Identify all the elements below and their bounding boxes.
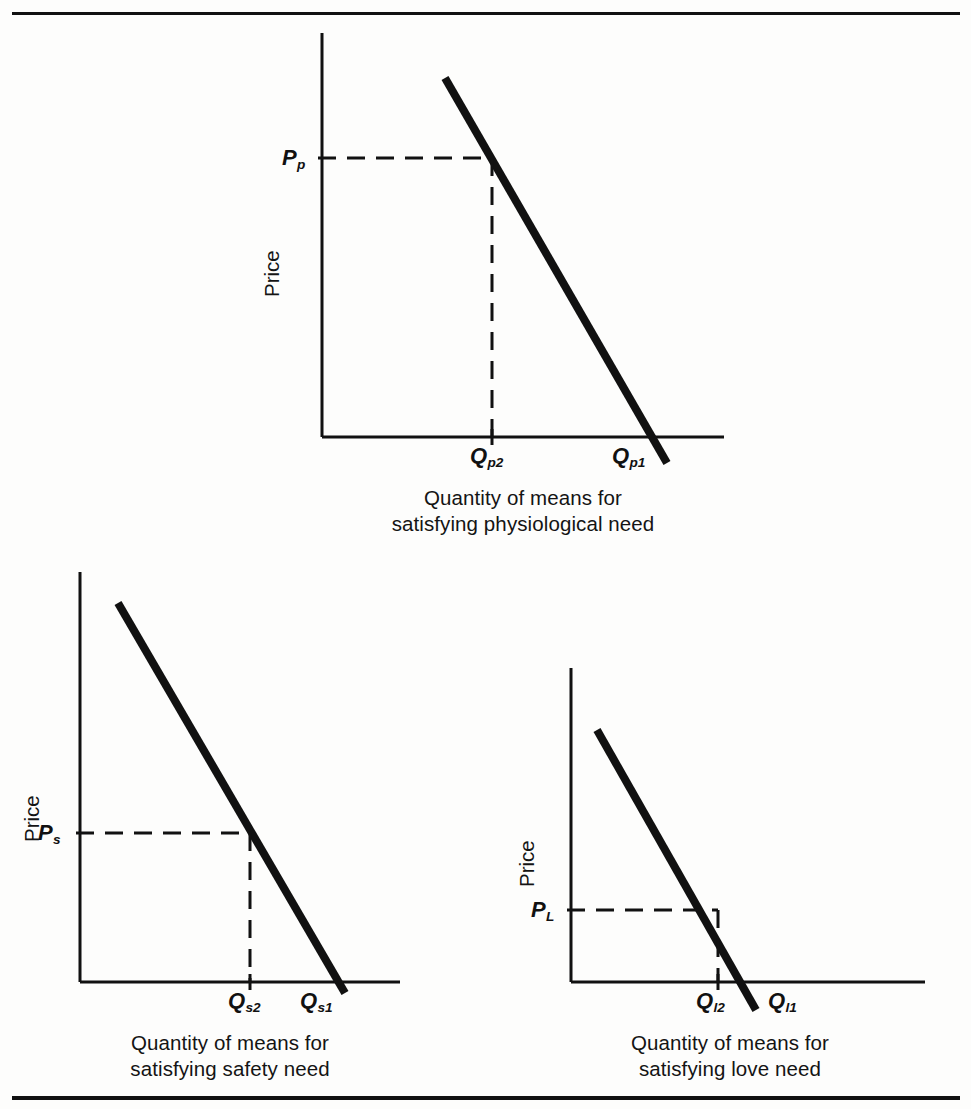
caption-physiological-line2: satisfying physiological need bbox=[322, 511, 724, 537]
figure-container: Price Pp Qp2 Qp1 Quantity of means for s… bbox=[0, 0, 971, 1109]
tick-label-q-p2-base: Q bbox=[470, 443, 487, 468]
caption-safety-line1: Quantity of means for bbox=[60, 1030, 400, 1056]
caption-safety: Quantity of means for satisfying safety … bbox=[60, 1030, 400, 1082]
tick-label-q-p1-sub: p1 bbox=[629, 455, 645, 470]
tick-label-q-l2-sub: l2 bbox=[713, 1000, 724, 1015]
caption-physiological: Quantity of means for satisfying physiol… bbox=[322, 485, 724, 537]
tick-label-price-pp-base: P bbox=[282, 145, 297, 170]
tick-label-q-l2-base: Q bbox=[696, 988, 713, 1013]
tick-label-price-pl: PL bbox=[531, 897, 554, 923]
demand-curve-line bbox=[118, 603, 345, 993]
tick-label-q-s1-sub: s1 bbox=[317, 1000, 332, 1015]
tick-label-q-l1: Ql1 bbox=[768, 988, 797, 1014]
tick-label-price-pl-sub: L bbox=[546, 909, 554, 924]
tick-label-price-pp-sub: p bbox=[297, 157, 305, 172]
y-axis-title-price: Price bbox=[515, 767, 539, 887]
tick-label-price-ps: Ps bbox=[38, 820, 60, 846]
tick-label-price-ps-sub: s bbox=[53, 832, 61, 847]
tick-label-q-l2: Ql2 bbox=[696, 988, 725, 1014]
tick-label-price-pl-base: P bbox=[531, 897, 546, 922]
tick-label-price-ps-base: P bbox=[38, 820, 53, 845]
caption-love-line2: satisfying love need bbox=[560, 1056, 900, 1082]
tick-label-q-s2-sub: s2 bbox=[245, 1000, 260, 1015]
tick-label-q-p1: Qp1 bbox=[612, 443, 645, 469]
tick-label-q-s2: Qs2 bbox=[228, 988, 260, 1014]
caption-physiological-line1: Quantity of means for bbox=[322, 485, 724, 511]
chart-physiological: Price Pp Qp2 Qp1 Quantity of means for s… bbox=[0, 0, 971, 545]
tick-label-q-p2: Qp2 bbox=[470, 443, 503, 469]
caption-love: Quantity of means for satisfying love ne… bbox=[560, 1030, 900, 1082]
tick-label-q-l1-base: Q bbox=[768, 988, 785, 1013]
bottom-divider-rule bbox=[12, 1096, 960, 1100]
demand-curve-line bbox=[445, 78, 667, 463]
tick-label-q-p1-base: Q bbox=[612, 443, 629, 468]
caption-love-line1: Quantity of means for bbox=[560, 1030, 900, 1056]
chart-love: Price PL Ql2 Ql1 Quantity of means for s… bbox=[485, 545, 971, 1090]
chart-safety: Price Ps Qs2 Qs1 Quantity of means for s… bbox=[0, 545, 485, 1090]
caption-safety-line2: satisfying safety need bbox=[60, 1056, 400, 1082]
demand-curve-line bbox=[597, 730, 756, 1010]
tick-label-q-s1-base: Q bbox=[300, 988, 317, 1013]
tick-label-q-s1: Qs1 bbox=[300, 988, 332, 1014]
y-axis-title-price: Price bbox=[260, 177, 284, 297]
tick-label-q-p2-sub: p2 bbox=[487, 455, 503, 470]
chart-love-plot bbox=[485, 545, 971, 1090]
tick-label-q-s2-base: Q bbox=[228, 988, 245, 1013]
tick-label-price-pp: Pp bbox=[282, 145, 305, 171]
tick-label-q-l1-sub: l1 bbox=[785, 1000, 796, 1015]
